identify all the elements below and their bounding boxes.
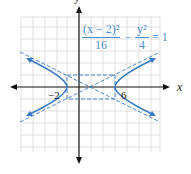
tick-label-neg2: −2	[48, 89, 60, 101]
x-axis-label: x	[177, 80, 182, 95]
y-axis-arrow-up	[76, 6, 82, 13]
x-axis-arrow-left	[10, 84, 17, 90]
y-axis-label: y	[75, 0, 79, 4]
tick-label-6: 6	[121, 89, 127, 101]
equation-label: (x − 2)² 16 − y² 4 = 1	[82, 22, 172, 52]
y-axis-arrow-down	[76, 157, 82, 164]
x-axis-arrow-right	[163, 84, 170, 90]
